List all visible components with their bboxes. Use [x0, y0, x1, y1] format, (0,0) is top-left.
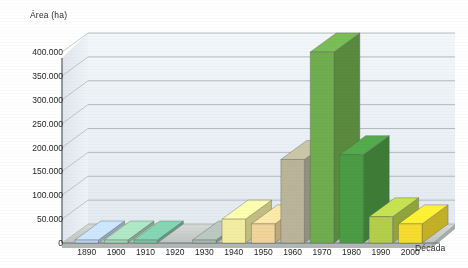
y-tick-label: 50.000: [5, 214, 63, 224]
y-tick-label: 350.000: [5, 71, 63, 81]
y-tick-label: 100.000: [5, 190, 63, 200]
x-tick-label: 1900: [107, 247, 126, 257]
x-tick-label: 1890: [77, 247, 96, 257]
x-tick-label: 1980: [342, 247, 361, 257]
bar-chart: Área (ha) Década: [0, 0, 468, 268]
x-tick-label: 1940: [224, 247, 243, 257]
y-tick-label: 200.000: [5, 143, 63, 153]
y-axis-ticks: 050.000100.000150.000200.000250.000300.0…: [5, 0, 63, 268]
y-tick-label: 400.000: [5, 47, 63, 57]
x-tick-label: 1960: [283, 247, 302, 257]
x-tick-label: 1910: [136, 247, 155, 257]
x-tick-label: 1990: [371, 247, 390, 257]
y-tick-label: 300.000: [5, 95, 63, 105]
plot-area: [0, 0, 468, 268]
x-tick-label: 2000: [401, 247, 420, 257]
y-tick-label: 250.000: [5, 119, 63, 129]
x-tick-label: 1930: [195, 247, 214, 257]
x-axis-ticks: 1890190019101920193019401950196019701980…: [0, 231, 468, 251]
x-tick-label: 1920: [165, 247, 184, 257]
y-tick-label: 150.000: [5, 166, 63, 176]
x-tick-label: 1950: [254, 247, 273, 257]
x-tick-label: 1970: [313, 247, 332, 257]
